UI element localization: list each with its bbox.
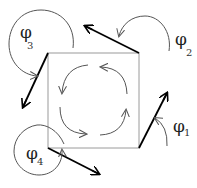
label-phi1: φ 1: [173, 118, 185, 135]
phi2-subscript: 2: [186, 48, 192, 58]
inner-arrow-top-left: [62, 65, 88, 93]
label-phi4: φ 4: [26, 145, 38, 162]
inner-arrow-top-right: [101, 67, 127, 94]
vector-top-right: [85, 26, 139, 53]
diagram-canvas: φ 1 φ 2 φ 3 φ 4: [0, 0, 197, 188]
vector-top-left: [23, 53, 48, 107]
phi3-symbol: φ: [20, 22, 32, 42]
label-phi3: φ 3: [20, 24, 32, 41]
phi4-subscript: 4: [37, 157, 43, 167]
phi2-symbol: φ: [175, 29, 187, 49]
inner-arrow-bottom-right: [100, 110, 126, 135]
phi3-subscript: 3: [27, 41, 33, 51]
angle-arc-phi2: [119, 16, 169, 51]
square-outline: [48, 53, 139, 148]
angle-arc-phi1: [155, 118, 167, 146]
inner-arrow-bottom-left: [60, 107, 86, 134]
angle-arc-phi4: [14, 125, 64, 175]
vector-bottom-left: [48, 148, 99, 174]
label-phi2: φ 2: [175, 31, 187, 48]
vector-bottom-right: [139, 93, 167, 148]
phi1-subscript: 1: [184, 128, 190, 138]
